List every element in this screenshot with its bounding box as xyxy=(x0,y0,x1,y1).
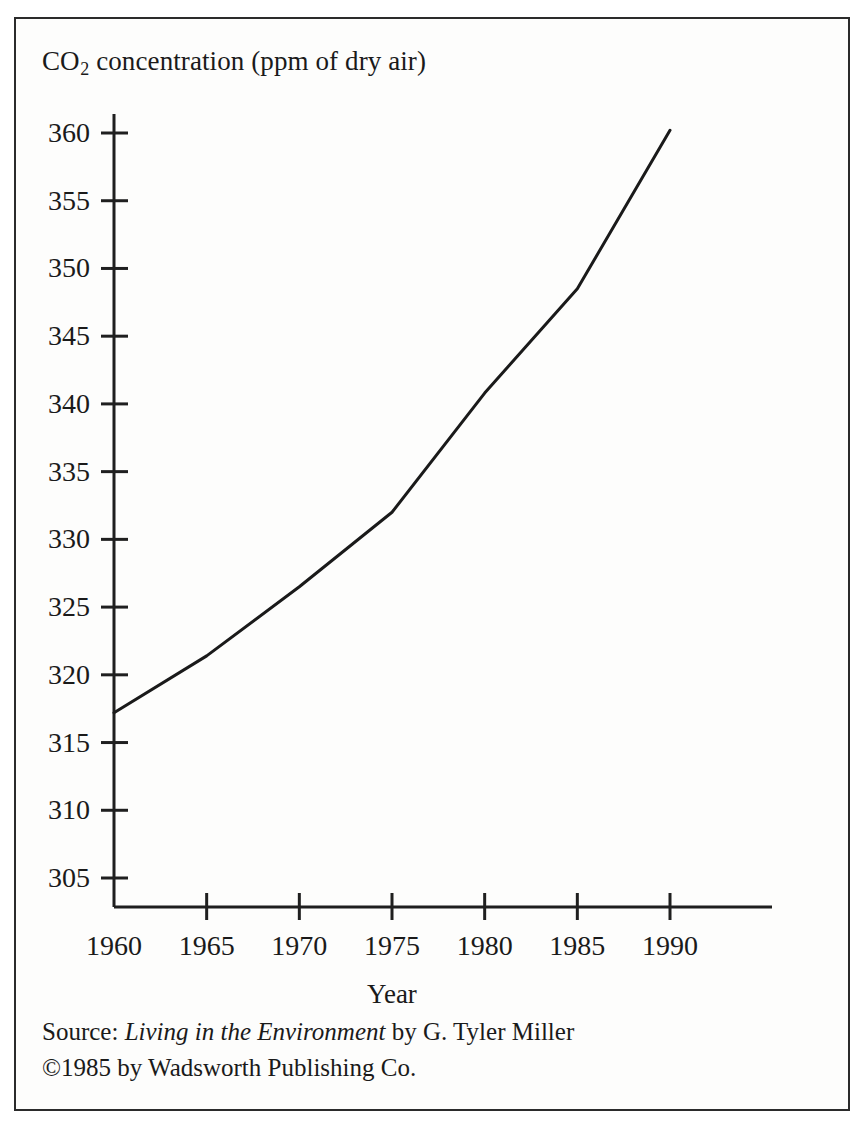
x-tick-label: 1990 xyxy=(615,932,725,960)
y-tick-label: 315 xyxy=(16,729,90,757)
axes-group xyxy=(114,114,772,907)
x-axis-title: Year xyxy=(54,979,730,1010)
source-author: by G. Tyler Miller xyxy=(392,1018,574,1045)
y-tick-label: 320 xyxy=(16,661,90,689)
y-tick-label: 305 xyxy=(16,864,90,892)
plot-area: 305310315320325330335340345350355360 196… xyxy=(16,19,852,1113)
y-tick-label: 310 xyxy=(16,796,90,824)
y-tick-label: 345 xyxy=(16,322,90,350)
y-tick-label: 335 xyxy=(16,458,90,486)
y-tick-label: 330 xyxy=(16,525,90,553)
y-tick-label: 355 xyxy=(16,187,90,215)
co2-data-line xyxy=(114,130,670,712)
y-tick-label: 350 xyxy=(16,254,90,282)
y-tick-label: 325 xyxy=(16,593,90,621)
source-prefix: Source: xyxy=(42,1018,118,1045)
source-note: Source: Living in the Environment by G. … xyxy=(42,1014,574,1087)
y-tick-label: 340 xyxy=(16,390,90,418)
figure-frame: CO2 concentration (ppm of dry air) 30531… xyxy=(14,17,850,1111)
source-work-title: Living in the Environment xyxy=(125,1018,386,1045)
y-tick-label: 360 xyxy=(16,119,90,147)
source-copyright: ©1985 by Wadsworth Publishing Co. xyxy=(42,1050,574,1086)
